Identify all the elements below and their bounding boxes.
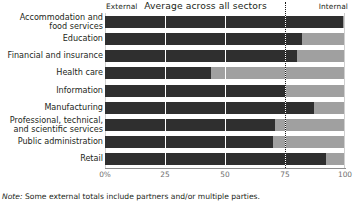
category-label: Information — [0, 86, 103, 95]
legend-label-internal: Internal — [319, 2, 348, 11]
bar-segment-external — [105, 136, 273, 148]
category-label: Manufacturing — [0, 103, 103, 112]
category-label: Financial and insurance — [0, 51, 103, 60]
bar-segment-external — [105, 119, 275, 131]
gridline-25 — [165, 13, 166, 168]
chart-title: Average across all sectors — [0, 0, 355, 11]
category-label: Education — [0, 34, 103, 43]
average-reference-line — [285, 2, 286, 168]
note-lead: Note: — [2, 192, 23, 201]
chart-note: Note: Some external totals include partn… — [2, 192, 260, 201]
plot-area — [105, 13, 345, 168]
chart-container: External Average across all sectors Inte… — [0, 0, 355, 211]
category-label: Public administration — [0, 137, 103, 146]
bar-segment-external — [105, 85, 285, 97]
x-tick-label: 50 — [220, 170, 229, 179]
gridline-50 — [225, 13, 226, 168]
x-tick-label: 100 — [338, 170, 352, 179]
axis-edge-right — [344, 13, 345, 168]
note-text: Some external totals include partners an… — [23, 192, 260, 201]
bar-segment-external — [105, 33, 302, 45]
bar-segment-external — [105, 50, 297, 62]
category-label: Accommodation and food services — [0, 12, 103, 31]
category-label: Professional, technical, and scientific … — [0, 116, 103, 135]
bar-segment-external — [105, 102, 314, 114]
bar-segment-external — [105, 153, 326, 165]
x-axis-line — [105, 168, 346, 169]
category-label: Health care — [0, 69, 103, 78]
x-tick-label: 0% — [99, 170, 111, 179]
bar-segment-external — [105, 67, 211, 79]
bar-segment-external — [105, 16, 343, 28]
x-tick-label: 75 — [280, 170, 289, 179]
x-tick-label: 25 — [160, 170, 169, 179]
category-label: Retail — [0, 155, 103, 164]
